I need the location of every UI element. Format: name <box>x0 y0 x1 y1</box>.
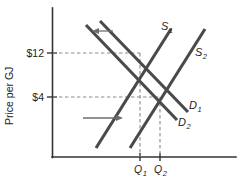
curve-label-d1-main: D <box>189 99 197 111</box>
curve-label-s2: S2 <box>195 46 208 61</box>
curve-label-d2: D2 <box>178 116 191 131</box>
supply-curve-s2 <box>130 29 205 148</box>
x-tick-label-q2: Q2 <box>154 163 168 178</box>
x-tick-label-q2-sub: 2 <box>162 169 168 178</box>
curve-label-s2-sub: 2 <box>202 52 208 61</box>
x-tick-label-q2-main: Q <box>154 163 162 175</box>
curve-label-s1-main: S <box>161 20 169 32</box>
x-tick-label-q1-sub: 1 <box>143 169 147 178</box>
x-tick-label-q1-main: Q <box>134 163 142 175</box>
y-tick-label-12: $12 <box>26 47 44 59</box>
supply-shift-arrow-right <box>83 115 123 121</box>
curve-label-s2-main: S <box>195 46 203 58</box>
curve-label-d2-sub: 2 <box>185 122 191 131</box>
demand-curve-d1 <box>100 21 188 112</box>
x-tick-label-q1: Q1 <box>134 163 147 178</box>
curve-label-d1: D1 <box>189 99 202 114</box>
curve-label-d2-main: D <box>178 116 186 128</box>
curve-label-s1-sub: 1 <box>169 26 173 35</box>
supply-demand-diagram: Price per GJ $12 $4 S1 S2 D1 D2 Q1 Q2 <box>0 0 245 187</box>
curve-label-d1-sub: 1 <box>197 105 201 114</box>
y-tick-label-4: $4 <box>32 91 44 103</box>
curve-label-s1: S1 <box>161 20 173 35</box>
y-axis-title: Price per GJ <box>3 67 15 125</box>
